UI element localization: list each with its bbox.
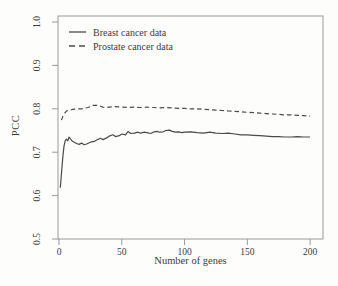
y-tick-label: 0.9	[32, 59, 42, 71]
dashed-line-sample-icon	[69, 39, 87, 53]
y-tick-label: 0.5	[32, 233, 42, 245]
legend: Breast cancer data Prostate cancer data	[69, 25, 173, 53]
solid-line-sample-icon	[69, 25, 87, 39]
y-tick-label: 0.8	[32, 103, 42, 115]
series-line-breast	[60, 130, 310, 188]
y-tick-label: 1.0	[32, 16, 42, 28]
legend-item-prostate: Prostate cancer data	[69, 39, 173, 53]
pcc-vs-genes-figure: 0.50.60.70.80.91.0050100150200 PCC Numbe…	[0, 0, 338, 286]
legend-label-breast: Breast cancer data	[93, 27, 166, 38]
y-tick-label: 0.7	[32, 146, 42, 158]
legend-item-breast: Breast cancer data	[69, 25, 173, 39]
legend-label-prostate: Prostate cancer data	[93, 41, 173, 52]
series-line-prostate	[62, 105, 311, 120]
y-tick-label: 0.6	[32, 189, 42, 201]
y-axis-title: PCC	[10, 110, 21, 142]
x-axis-title: Number of genes	[58, 255, 323, 266]
